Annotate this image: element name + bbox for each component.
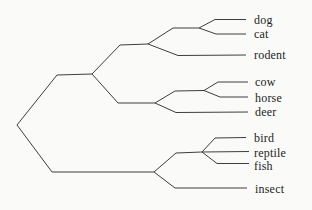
rodent-branch [148, 44, 246, 56]
taxon-label-deer: deer [255, 105, 276, 119]
cat-branch [199, 28, 246, 34]
lower-to-birdreptilefish-node [154, 152, 202, 172]
insect-branch [154, 172, 247, 188]
cow-branch [204, 82, 248, 91]
horse-branch [204, 91, 248, 98]
taxon-label-cow: cow [255, 75, 276, 89]
taxon-label-rodent: rodent [254, 48, 286, 62]
reptile-branch [202, 152, 249, 153]
phylogenetic-tree: dogcatrodentcowhorsedeerbirdreptilefishi… [0, 0, 312, 210]
taxon-label-insect: insect [255, 182, 285, 196]
taxon-label-fish: fish [254, 159, 273, 173]
root-to-lower-clade [17, 125, 154, 172]
taxon-label-horse: horse [255, 91, 282, 105]
ungulate-to-cowhorse-node [155, 91, 204, 104]
taxon-label-bird: bird [254, 131, 274, 145]
taxon-label-dog: dog [254, 13, 273, 27]
fish-branch [202, 152, 249, 164]
cladogram-figure: dogcatrodentcowhorsedeerbirdreptilefishi… [0, 0, 312, 210]
taxon-label-reptile: reptile [254, 146, 286, 160]
deer-branch [155, 103, 248, 113]
taxon-label-cat: cat [254, 27, 269, 41]
root-to-mammal-clade [17, 74, 92, 125]
mammal-to-dogcat-rodent-clade [92, 44, 148, 74]
mammal-to-ungulate-clade [92, 74, 155, 103]
bird-branch [202, 138, 246, 153]
dog-branch [199, 20, 246, 29]
dogcatrodent-to-dogcat-node [148, 28, 199, 44]
